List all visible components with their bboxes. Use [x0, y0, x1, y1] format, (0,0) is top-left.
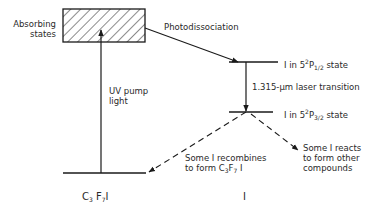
upper-state-suffix: state	[324, 60, 348, 70]
reacts-line1: Some I reacts	[303, 143, 361, 153]
recombines-line2: to form C3F7 I	[185, 163, 267, 176]
c3f7i-axis-label: C3 F7I	[82, 192, 109, 205]
molecule-mid: F	[93, 191, 102, 202]
uv-pump-line2: light	[109, 96, 148, 106]
recombines-suffix: I	[237, 163, 242, 173]
molecule-suffix: I	[106, 191, 109, 202]
uv-pump-label: UV pump light	[109, 86, 148, 106]
recombines-prefix: to form C	[185, 163, 225, 173]
reacts-line3: compounds	[303, 163, 361, 173]
lower-state-sub: 3/2	[314, 114, 324, 121]
molecule-prefix: C	[82, 191, 89, 202]
lower-state-prefix: I in 5	[284, 110, 305, 120]
recombines-label: Some I recombines to form C3F7 I	[185, 153, 267, 176]
absorbing-states-line1: Absorbing	[8, 19, 56, 29]
photodissociation-arrow	[145, 28, 238, 62]
upper-state-sub: 1/2	[314, 64, 324, 71]
absorbing-states-label: Absorbing states	[8, 19, 56, 39]
absorbing-states-box	[63, 9, 145, 42]
upper-state-label: I in 52P1/2 state	[284, 57, 348, 73]
uv-pump-line1: UV pump	[109, 86, 148, 96]
absorbing-states-line2: states	[8, 29, 56, 39]
laser-transition-label: 1.315-μm laser transition	[252, 82, 360, 92]
photodissociation-label: Photodissociation	[164, 22, 239, 32]
lower-state-suffix: state	[324, 110, 348, 120]
iodine-axis-label: I	[243, 192, 246, 202]
lower-state-label: I in 52P3/2 state	[284, 107, 348, 123]
upper-state-prefix: I in 5	[284, 60, 305, 70]
recombines-line1: Some I recombines	[185, 153, 267, 163]
reacts-label: Some I reacts to form other compounds	[303, 143, 361, 173]
reacts-line2: to form other	[303, 153, 361, 163]
